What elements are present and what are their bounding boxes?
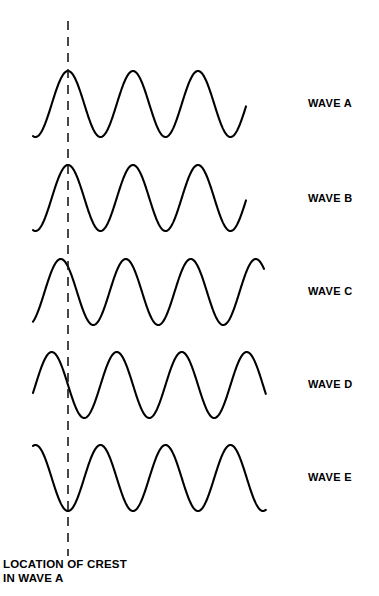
wave-diagram-svg	[0, 0, 379, 596]
wave-label-e-text: WAVE E	[308, 471, 352, 483]
wave-curve-b	[33, 165, 246, 231]
wave-label-c: WAVE C	[308, 285, 352, 297]
wave-label-b-text: WAVE B	[308, 192, 352, 204]
wave-label-e: WAVE E	[308, 471, 352, 483]
wave-phase-figure: WAVE A WAVE B WAVE C WAVE D WAVE E LOCAT…	[0, 0, 379, 596]
caption-line-2: IN WAVE A	[3, 572, 127, 586]
wave-label-b: WAVE B	[308, 192, 352, 204]
wave-label-c-text: WAVE C	[308, 285, 352, 297]
wave-label-a-text: WAVE A	[308, 97, 352, 109]
wave-label-d: WAVE D	[308, 378, 352, 390]
wave-label-a: WAVE A	[308, 97, 352, 109]
reference-line-caption: LOCATION OF CREST IN WAVE A	[3, 558, 127, 585]
wave-label-d-text: WAVE D	[308, 378, 352, 390]
wave-curve-a	[33, 71, 246, 137]
caption-line-1: LOCATION OF CREST	[3, 558, 127, 572]
